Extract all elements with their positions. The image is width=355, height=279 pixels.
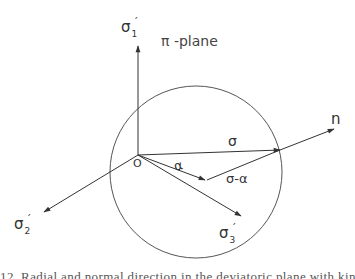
sigma2-axis [44,155,138,212]
sigma-minus-alpha-label: σ-α [226,172,248,185]
sigma3-label: σ3´ [219,226,239,241]
normal-vector [280,129,334,150]
yield-circle [110,86,282,258]
sigma1-label: σ1´ [121,20,141,35]
sigma-vector-label: σ [228,134,237,148]
figure-caption: 12. Radial and normal direction in the d… [0,270,355,279]
normal-label: n [331,112,341,127]
origin-label: O [133,158,142,169]
sigma-vector [138,150,280,155]
pi-plane-diagram: σ1´ π -plane σ2´ σ3´ O σ α σ-α n [0,0,355,279]
pi-plane-label: π -plane [161,34,218,48]
sigma2-label: σ2´ [14,217,34,232]
